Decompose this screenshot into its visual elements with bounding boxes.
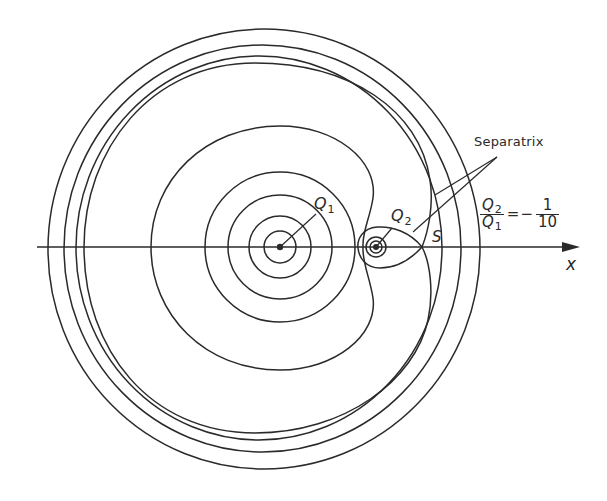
- charge-q2-dot: [373, 244, 379, 250]
- inner-field-line-large: [151, 126, 373, 370]
- q1-label-letter: Q: [314, 194, 327, 213]
- q2-label: Q2: [391, 208, 412, 224]
- outer-field-line-2: [64, 45, 461, 452]
- ratio-left-fraction: Q2 Q1: [480, 198, 504, 231]
- diagram-canvas: [0, 0, 607, 501]
- q2-label-subscript: 2: [405, 215, 412, 228]
- charge-q1-dot: [277, 244, 283, 250]
- separatrix-curve: [84, 63, 431, 433]
- ratio-numerator-subscript: 2: [495, 203, 502, 216]
- saddle-point-label: S: [432, 230, 442, 245]
- x-axis-arrowhead-icon: [562, 242, 580, 252]
- ratio-sign: −: [520, 205, 533, 223]
- separatrix-label: Separatrix: [474, 135, 544, 148]
- ratio-value-denominator: 10: [536, 215, 559, 231]
- field-line-diagram: Separatrix Q1 Q2 S x Q2 Q1 = − 1 10: [0, 0, 607, 501]
- q1-label: Q1: [314, 196, 335, 212]
- q2-label-letter: Q: [391, 206, 404, 225]
- ratio-numerator: Q2: [480, 198, 504, 214]
- ratio-denominator-subscript: 1: [495, 220, 502, 233]
- charge-ratio: Q2 Q1 = − 1 10: [480, 198, 559, 231]
- ratio-denominator-letter: Q: [482, 213, 494, 231]
- ratio-numerator-letter: Q: [482, 196, 494, 214]
- outer-field-line-3: [76, 56, 442, 440]
- separatrix-leader-1: [435, 157, 497, 195]
- ratio-equals: =: [507, 205, 520, 223]
- ratio-right-fraction: 1 10: [536, 198, 559, 231]
- ratio-value-numerator: 1: [541, 198, 555, 214]
- q1-label-subscript: 1: [328, 203, 335, 216]
- x-axis-label: x: [566, 256, 576, 273]
- ratio-denominator: Q1: [480, 215, 504, 231]
